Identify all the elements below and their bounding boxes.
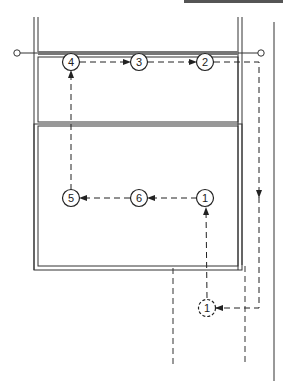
node-6: 6 bbox=[131, 190, 148, 207]
svg-text:4: 4 bbox=[68, 56, 74, 68]
svg-text:5: 5 bbox=[68, 192, 74, 204]
rail-terminal-right-icon bbox=[258, 50, 264, 56]
node-1-start: 1 bbox=[199, 300, 216, 317]
svg-text:1: 1 bbox=[202, 192, 208, 204]
edge-1start-to-1 bbox=[206, 208, 207, 298]
rail-terminal-left-icon bbox=[14, 50, 20, 56]
node-3: 3 bbox=[131, 54, 148, 71]
diagram-canvas: 1 6 5 4 3 2 1 bbox=[0, 0, 283, 381]
path-edges bbox=[71, 62, 259, 308]
svg-text:1: 1 bbox=[204, 302, 210, 314]
svg-text:2: 2 bbox=[202, 56, 208, 68]
node-2: 2 bbox=[197, 54, 214, 71]
node-1: 1 bbox=[197, 190, 214, 207]
top-bar bbox=[184, 0, 283, 3]
descent-arrow-icon bbox=[256, 190, 262, 198]
node-5: 5 bbox=[63, 190, 80, 207]
node-4: 4 bbox=[63, 54, 80, 71]
svg-text:6: 6 bbox=[136, 192, 142, 204]
svg-text:3: 3 bbox=[136, 56, 142, 68]
edge-2-to-1start bbox=[214, 62, 259, 308]
